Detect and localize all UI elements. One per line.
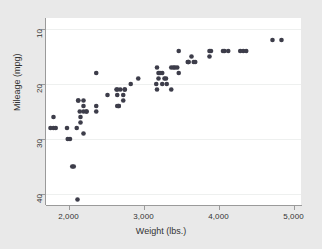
data-point: [84, 109, 89, 114]
data-point: [207, 54, 212, 59]
data-point: [164, 82, 169, 87]
data-point: [81, 131, 86, 136]
data-point: [226, 49, 231, 54]
data-point: [53, 126, 58, 131]
data-point: [175, 65, 180, 70]
data-point: [160, 82, 165, 87]
data-point: [221, 49, 226, 54]
data-point: [74, 126, 79, 131]
data-points-layer: [46, 18, 301, 205]
y-axis-line: [45, 18, 46, 205]
scatter-plot-figure: 10203040 2,0003,0004,0005,000 Mileage (m…: [0, 0, 322, 249]
data-point: [279, 38, 284, 43]
x-axis-line: [46, 205, 302, 206]
x-tick-label: 2,000: [58, 212, 79, 221]
data-point: [176, 49, 181, 54]
data-point: [105, 93, 110, 98]
data-point: [81, 98, 86, 103]
data-point: [65, 137, 70, 142]
data-point: [94, 104, 99, 109]
y-tick-label: 40: [35, 194, 44, 203]
x-tick-mark: [69, 206, 70, 210]
data-point: [155, 65, 160, 70]
data-point: [169, 87, 174, 92]
x-axis-title: Weight (lbs.): [0, 226, 322, 236]
data-point: [186, 60, 191, 65]
y-tick-label: 30: [35, 139, 44, 148]
data-point: [154, 82, 159, 87]
x-tick-label: 5,000: [283, 212, 304, 221]
data-point: [81, 104, 86, 109]
data-point: [193, 60, 198, 65]
data-point: [189, 54, 194, 59]
plot-area: [46, 18, 301, 205]
data-point: [121, 93, 126, 98]
data-point: [156, 76, 161, 81]
data-point: [155, 87, 160, 92]
data-point: [75, 197, 80, 202]
data-point: [115, 87, 120, 92]
data-point: [158, 71, 163, 76]
data-point: [65, 126, 70, 131]
data-point: [128, 82, 133, 87]
data-point: [94, 109, 99, 114]
data-point: [78, 120, 83, 125]
x-tick-mark: [294, 206, 295, 210]
y-tick-label: 10: [35, 29, 44, 38]
x-tick-mark: [144, 206, 145, 210]
data-point: [94, 71, 99, 76]
data-point: [270, 38, 275, 43]
data-point: [238, 49, 243, 54]
data-point: [164, 76, 169, 81]
x-tick-label: 3,000: [133, 212, 154, 221]
x-tick-mark: [219, 206, 220, 210]
data-point: [244, 49, 249, 54]
x-tick-label: 4,000: [208, 212, 229, 221]
data-point: [51, 115, 56, 120]
data-point: [71, 164, 76, 169]
data-point: [122, 87, 127, 92]
data-point: [48, 126, 53, 131]
y-axis-title: Mileage (mpg): [12, 53, 22, 111]
data-point: [136, 76, 141, 81]
y-tick-label: 20: [35, 84, 44, 93]
data-point: [115, 104, 120, 109]
data-point: [115, 93, 120, 98]
data-point: [76, 98, 81, 103]
data-point: [78, 115, 83, 120]
data-point: [176, 71, 181, 76]
data-point: [121, 98, 126, 103]
data-point: [207, 49, 212, 54]
